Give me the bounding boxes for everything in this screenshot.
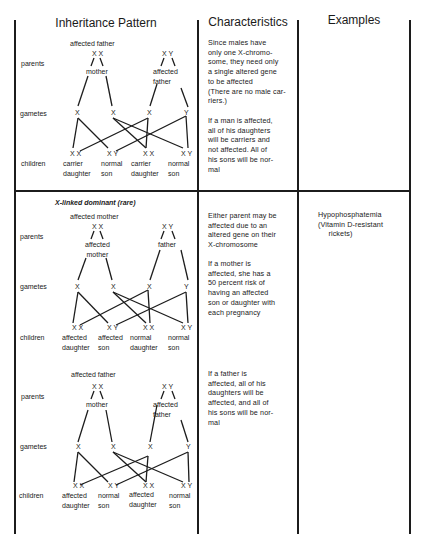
row-label-gametes: gametes: [20, 283, 47, 290]
child-4-genotype: X Y: [181, 150, 192, 157]
gamete-4: Y: [186, 443, 191, 450]
child-4-genotype: X Y: [181, 482, 192, 489]
parent-left-top-label: affected father: [71, 371, 116, 378]
gamete-1: X: [75, 109, 80, 116]
characteristics-text: Since males have only one X-chromo- some…: [208, 38, 286, 106]
row-label-children: children: [19, 492, 44, 499]
gamete-3: X: [148, 443, 153, 450]
gamete-1: X: [75, 283, 80, 290]
gamete-4: Y: [184, 109, 189, 116]
parent-right-genotype: X Y: [162, 383, 173, 390]
row-label-gametes: gametes: [20, 110, 47, 117]
parent-left-genotype: X X: [92, 383, 103, 390]
child-2-label: normal son: [98, 491, 119, 510]
child-3-label: affected daughter: [129, 490, 157, 509]
gamete-2: X: [111, 283, 116, 290]
child-4-genotype: X Y: [181, 324, 192, 331]
child-2-label: normal son: [101, 159, 122, 178]
characteristics-text: If a man is affected, all of his daughte…: [208, 116, 273, 174]
gamete-4: Y: [184, 283, 189, 290]
child-3-label: normal daughter: [130, 333, 158, 352]
parent-right-label: father: [158, 241, 176, 248]
child-3-genotype: X X: [143, 482, 154, 489]
parent-right-label: affected father: [153, 67, 178, 87]
row-label-children: children: [21, 160, 46, 167]
child-4-label: normal son: [169, 491, 190, 510]
characteristics-text: If a mother is affected, she has a 50 pe…: [208, 259, 275, 317]
child-1-genotype: X X: [73, 482, 84, 489]
child-2-genotype: X Y: [107, 150, 118, 157]
row-label-gametes: gametes: [20, 443, 47, 450]
gamete-2: X: [111, 443, 116, 450]
row-label-children: children: [20, 334, 45, 341]
gamete-2: X: [111, 109, 116, 116]
example-text: Hypophosphatemia (Vitamin D-resistant ri…: [318, 210, 383, 239]
gamete-3: X: [147, 283, 152, 290]
row-label-parents: parents: [21, 60, 44, 67]
child-4-label: normal son: [168, 333, 189, 352]
characteristics-text: Either parent may be affected due to an …: [208, 211, 277, 250]
child-2-label: affected son: [98, 333, 123, 352]
row-label-parents: parents: [20, 233, 43, 240]
characteristics-text: If a father is affected, all of his daug…: [208, 369, 273, 427]
parent-left-bottom-label: mother: [86, 68, 108, 75]
parent-left-top-label: affected mother: [70, 213, 119, 220]
parent-right-genotype: X Y: [162, 223, 173, 230]
child-4-label: normal son: [168, 159, 189, 178]
gamete-3: X: [147, 109, 152, 116]
child-1-label: affected daughter: [62, 491, 90, 510]
parent-right-genotype: X Y: [162, 50, 173, 57]
parent-left-bottom-label: affected mother: [85, 240, 110, 260]
child-1-label: carrier daughter: [63, 159, 91, 178]
parent-left-genotype: X X: [92, 223, 103, 230]
section-title: X-linked dominant (rare): [55, 199, 136, 206]
row-label-parents: parents: [21, 393, 44, 400]
parent-left-bottom-label: mother: [86, 401, 108, 408]
child-3-label: carrier daughter: [131, 159, 159, 178]
child-2-genotype: X Y: [107, 324, 118, 331]
parent-left-genotype: X X: [92, 50, 103, 57]
child-1-genotype: X X: [72, 324, 83, 331]
gamete-1: X: [76, 443, 81, 450]
child-1-genotype: X X: [70, 150, 81, 157]
child-3-genotype: X X: [143, 150, 154, 157]
child-2-genotype: X Y: [108, 482, 119, 489]
child-1-label: affected daughter: [62, 333, 90, 352]
parent-right-label: affected father: [153, 400, 178, 420]
child-3-genotype: X X: [143, 324, 154, 331]
parent-left-top-label: affected father: [70, 40, 115, 47]
